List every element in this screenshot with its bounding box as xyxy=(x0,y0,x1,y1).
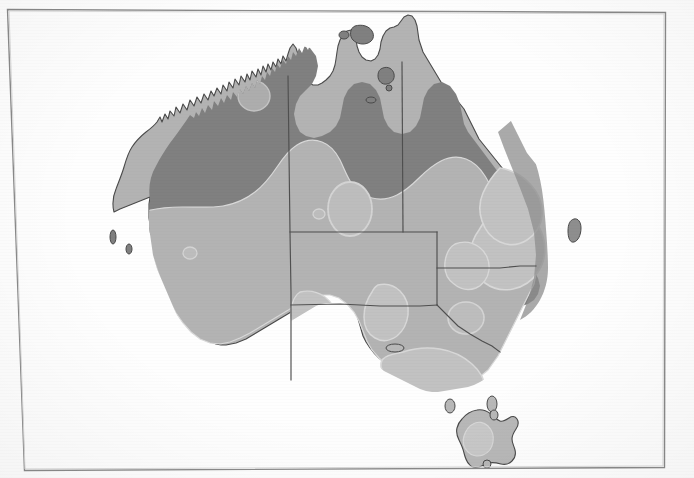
page-border-frame xyxy=(0,0,694,478)
page-canvas: Map of Australia with shaded distributio… xyxy=(0,0,694,478)
page-border-inner-shadow xyxy=(9,11,664,469)
page-border-rect xyxy=(8,10,666,471)
